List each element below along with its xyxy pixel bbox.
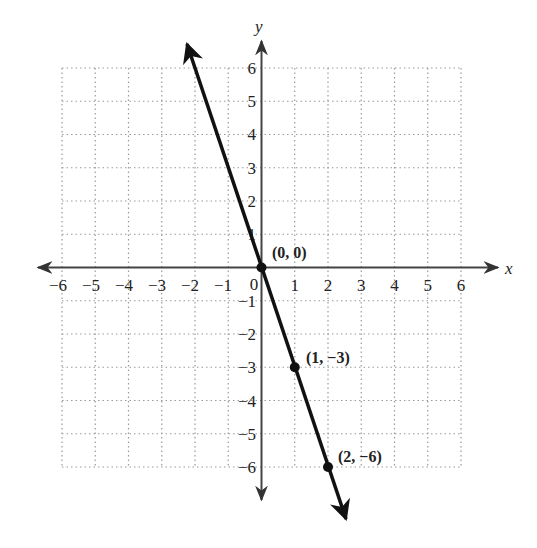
y-tick: 5 <box>248 92 257 111</box>
point-label-0-0: (0, 0) <box>272 244 307 262</box>
point-0-0 <box>257 263 267 273</box>
point-label-1-neg3: (1, −3) <box>306 349 350 367</box>
x-tick: −3 <box>148 276 166 295</box>
coordinate-plane: x y −6 −5 −4 −3 −2 −1 0 1 2 3 4 5 6 6 5 … <box>0 0 537 548</box>
y-tick: −3 <box>238 358 256 377</box>
x-tick: 2 <box>324 276 333 295</box>
x-tick: 6 <box>457 276 466 295</box>
x-tick: −4 <box>115 276 134 295</box>
y-tick: 3 <box>248 159 257 178</box>
x-tick-labels: −6 −5 −4 −3 −2 −1 0 1 2 3 4 5 6 <box>49 275 465 295</box>
y-tick: 6 <box>248 59 257 78</box>
x-tick: 5 <box>424 276 433 295</box>
x-tick: 3 <box>357 276 366 295</box>
x-tick: 1 <box>291 276 300 295</box>
y-tick: −6 <box>238 458 256 477</box>
x-axis-label: x <box>504 259 513 278</box>
point-1-neg3 <box>290 362 300 372</box>
line-y-equals-neg-3x <box>187 44 346 519</box>
y-tick: 4 <box>248 125 257 144</box>
y-tick: −1 <box>238 292 256 311</box>
x-tick: −1 <box>214 276 232 295</box>
x-tick: 4 <box>390 276 399 295</box>
x-tick: −2 <box>181 276 199 295</box>
y-axis-label: y <box>253 17 263 36</box>
x-tick: −6 <box>49 276 67 295</box>
point-label-2-neg6: (2, −6) <box>338 448 382 466</box>
y-tick: −5 <box>238 425 256 444</box>
x-tick: −5 <box>82 276 100 295</box>
y-tick: −2 <box>238 325 256 344</box>
y-tick: −4 <box>238 392 257 411</box>
y-tick: 2 <box>248 192 257 211</box>
point-2-neg6 <box>323 462 333 472</box>
